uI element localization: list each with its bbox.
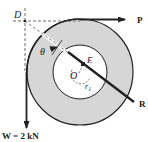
- label-W: W = 2 kN: [2, 131, 39, 141]
- label-R: R: [139, 99, 146, 109]
- label-E: E: [86, 55, 93, 65]
- diagram-canvas: D P θ E O r1 R W = 2 kN: [0, 0, 148, 142]
- inner-hub: [53, 45, 107, 99]
- pulley-diagram: D P θ E O r1 R W = 2 kN: [0, 0, 148, 142]
- label-D: D: [13, 9, 22, 20]
- label-theta: θ: [40, 46, 45, 57]
- label-O: O: [70, 70, 77, 81]
- label-P: P: [137, 15, 143, 25]
- point-D: [24, 20, 27, 23]
